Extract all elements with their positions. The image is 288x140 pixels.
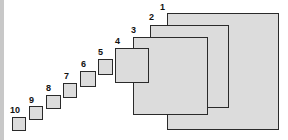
square-label-10: 10 (10, 106, 20, 115)
square-label-2: 2 (149, 13, 154, 22)
square-4 (115, 48, 149, 83)
square-9 (29, 106, 43, 120)
square-10 (12, 117, 26, 131)
square-8 (46, 95, 61, 109)
square-7 (63, 83, 77, 98)
square-label-5: 5 (98, 48, 103, 57)
left-edge-strip (0, 0, 4, 140)
square-label-4: 4 (115, 37, 120, 46)
square-label-3: 3 (131, 26, 136, 35)
square-label-7: 7 (64, 72, 69, 81)
square-label-1: 1 (160, 3, 165, 12)
square-label-8: 8 (46, 84, 51, 93)
square-5 (98, 59, 113, 75)
square-6 (80, 71, 96, 87)
square-label-6: 6 (81, 60, 86, 69)
square-label-9: 9 (29, 96, 34, 105)
